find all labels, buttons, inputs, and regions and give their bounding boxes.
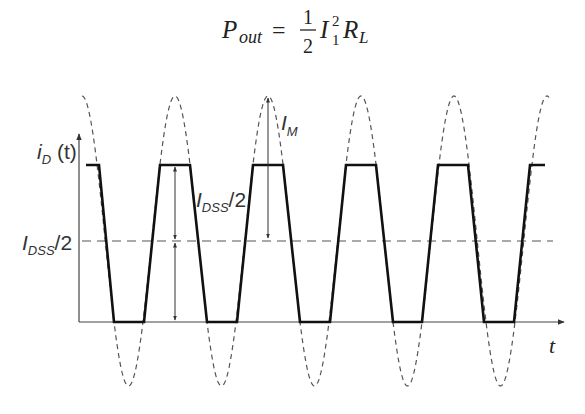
swing-label: IDSS/2 bbox=[196, 188, 246, 215]
peak-amplitude-label: IM bbox=[281, 111, 298, 139]
clipped-drain-current-waveform bbox=[86, 165, 545, 322]
idss-half-level-label: IDSS/2 bbox=[22, 231, 72, 258]
x-axis-label: t bbox=[549, 333, 556, 358]
y-axis-label: iD (t) bbox=[37, 140, 77, 167]
drain-current-waveform-diagram: iD (t) IDSS/2 IDSS/2 IM t bbox=[0, 0, 585, 414]
